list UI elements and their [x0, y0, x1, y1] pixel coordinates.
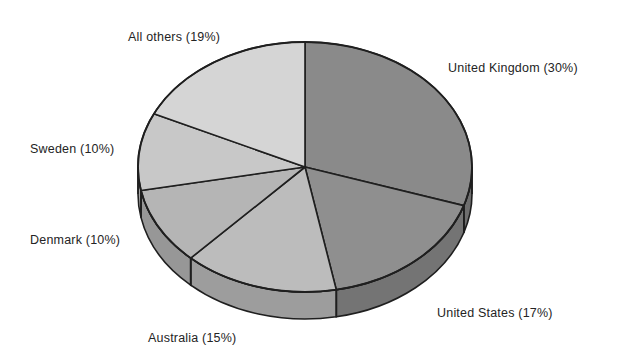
slice-label-united-kingdom: United Kingdom (30%)	[448, 61, 578, 76]
slice-label-australia: Australia (15%)	[148, 331, 236, 346]
pie-top-surface	[138, 42, 472, 292]
pie-chart: All others (19%) United Kingdom (30%) Sw…	[0, 0, 617, 359]
slice-label-united-states: United States (17%)	[437, 306, 553, 321]
slice-label-all-others: All others (19%)	[128, 30, 220, 45]
slice-label-sweden: Sweden (10%)	[30, 142, 114, 157]
slice-label-denmark: Denmark (10%)	[30, 233, 120, 248]
